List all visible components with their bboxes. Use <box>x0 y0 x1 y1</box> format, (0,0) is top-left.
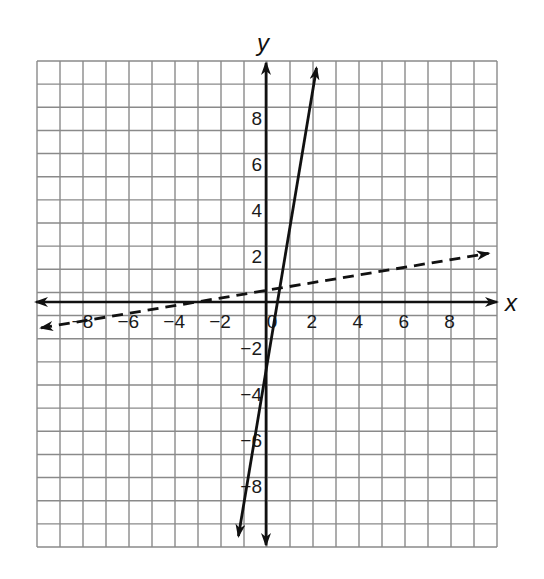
x-tick-label: 8 <box>444 311 455 332</box>
y-tick-label: −8 <box>240 476 262 497</box>
x-axis-label: x <box>504 289 518 316</box>
y-tick-label: 6 <box>251 154 262 175</box>
x-tick-label: 4 <box>353 311 364 332</box>
y-tick-label: −4 <box>240 384 262 405</box>
x-tick-label: −2 <box>209 311 231 332</box>
x-tick-label: 6 <box>398 311 409 332</box>
y-tick-label: 4 <box>251 200 262 221</box>
y-tick-label: −6 <box>240 430 262 451</box>
x-tick-label: −4 <box>163 311 185 332</box>
x-tick-label: 2 <box>307 311 318 332</box>
y-tick-label: 8 <box>251 108 262 129</box>
y-tick-label: 2 <box>251 246 262 267</box>
coordinate-plane: −8−6−4−2024688642−2−4−6−8 x y <box>0 0 544 579</box>
y-axis-label: y <box>255 29 271 56</box>
y-tick-label: −2 <box>240 338 262 359</box>
